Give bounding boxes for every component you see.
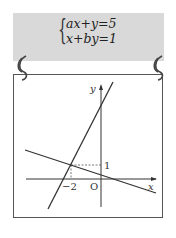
graph-plot: y x O −2 1	[0, 0, 176, 238]
x-tick-label: −2	[62, 181, 77, 192]
right-hook-icon	[154, 56, 162, 80]
line-steep	[48, 82, 113, 209]
y-tick-label: 1	[104, 160, 110, 171]
x-axis-label: x	[148, 181, 154, 192]
y-axis-label: y	[89, 83, 96, 94]
y-axis-arrow-icon	[99, 84, 103, 90]
left-hook-icon	[18, 56, 26, 80]
origin-label: O	[90, 181, 98, 192]
